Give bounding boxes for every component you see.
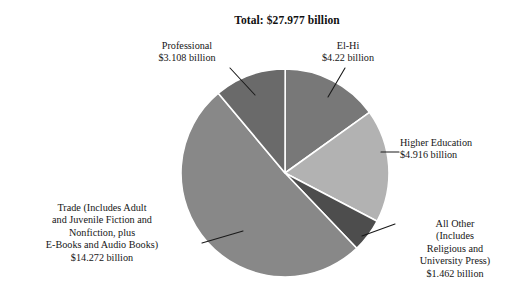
pie-slices-group <box>181 69 389 277</box>
slice-label-all-other: All Other (Includes Religious and Univer… <box>396 218 514 280</box>
slice-label-professional: Professional $3.108 billion <box>128 40 246 65</box>
slice-label-higher-education: Higher Education $4.916 billion <box>400 137 516 162</box>
slice-label-elhi: El-Hi $4.22 billion <box>296 40 400 65</box>
slice-label-trade: Trade (Includes Adult and Juvenile Ficti… <box>6 202 198 264</box>
pie-chart-figure: Total: $27.977 billion Professional $3.1… <box>0 0 518 295</box>
